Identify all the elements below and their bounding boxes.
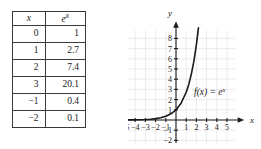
y-tick-label: 7 [168, 45, 172, 54]
cell-y: 7.4 [45, 60, 85, 77]
y-tick-label: 1 [168, 106, 172, 115]
y-tick-label: 6 [168, 55, 172, 64]
function-label: f(x) = ex [194, 86, 226, 99]
graph-svg: −5−4−3−2−112345 87654321−1−2 x y f(x) = … [128, 6, 258, 143]
function-curve [128, 28, 198, 120]
y-tick-label: 2 [168, 96, 172, 105]
x-tick-label: 1 [184, 123, 188, 132]
cell-x: −2 [13, 111, 46, 128]
cell-x: 3 [13, 77, 46, 94]
y-axis-label: y [167, 8, 172, 18]
y-tick-label: 3 [168, 85, 172, 94]
table-row: 0 1 [13, 26, 86, 43]
y-axis-tick-labels: 87654321−1−2 [163, 34, 172, 143]
cell-y: 2.7 [45, 43, 85, 60]
x-tick-label: 3 [205, 123, 209, 132]
x-tick-label: 4 [215, 123, 219, 132]
exponential-values-table: x ex 0 1 1 2.7 2 7.4 3 20.1 −1 0.4 −2 [12, 11, 86, 128]
x-tick-label: −2 [151, 123, 160, 132]
cell-x: 2 [13, 60, 46, 77]
cell-x: 0 [13, 26, 46, 43]
x-tick-label: −5 [128, 123, 129, 132]
column-header-x: x [13, 12, 46, 26]
y-tick-label: 8 [168, 34, 172, 43]
table-row: −2 0.1 [13, 111, 86, 128]
exponential-function-graph: −5−4−3−2−112345 87654321−1−2 x y f(x) = … [128, 6, 258, 143]
table-body: 0 1 1 2.7 2 7.4 3 20.1 −1 0.4 −2 0.1 [13, 26, 86, 128]
y-tick-label: 4 [168, 75, 172, 84]
x-tick-label: −4 [131, 123, 140, 132]
header-e-exponent: x [66, 11, 70, 20]
table-row: 1 2.7 [13, 43, 86, 60]
cell-y: 0.4 [45, 94, 85, 111]
x-tick-label: 2 [194, 123, 198, 132]
y-tick-label: −1 [163, 126, 172, 135]
header-x-base: x [27, 13, 31, 23]
y-tick-label: 5 [168, 65, 172, 74]
cell-y: 0.1 [45, 111, 85, 128]
cell-y: 20.1 [45, 77, 85, 94]
table-header-row: x ex [13, 12, 86, 26]
cell-x: −1 [13, 94, 46, 111]
x-tick-label: −3 [141, 123, 150, 132]
cell-y: 1 [45, 26, 85, 43]
table-row: −1 0.4 [13, 94, 86, 111]
x-axis-label: x [249, 115, 254, 125]
cell-x: 1 [13, 43, 46, 60]
y-tick-label: −2 [163, 136, 172, 143]
column-header-ex: ex [45, 12, 85, 26]
table-row: 3 20.1 [13, 77, 86, 94]
table-row: 2 7.4 [13, 60, 86, 77]
x-tick-label: 5 [225, 123, 229, 132]
